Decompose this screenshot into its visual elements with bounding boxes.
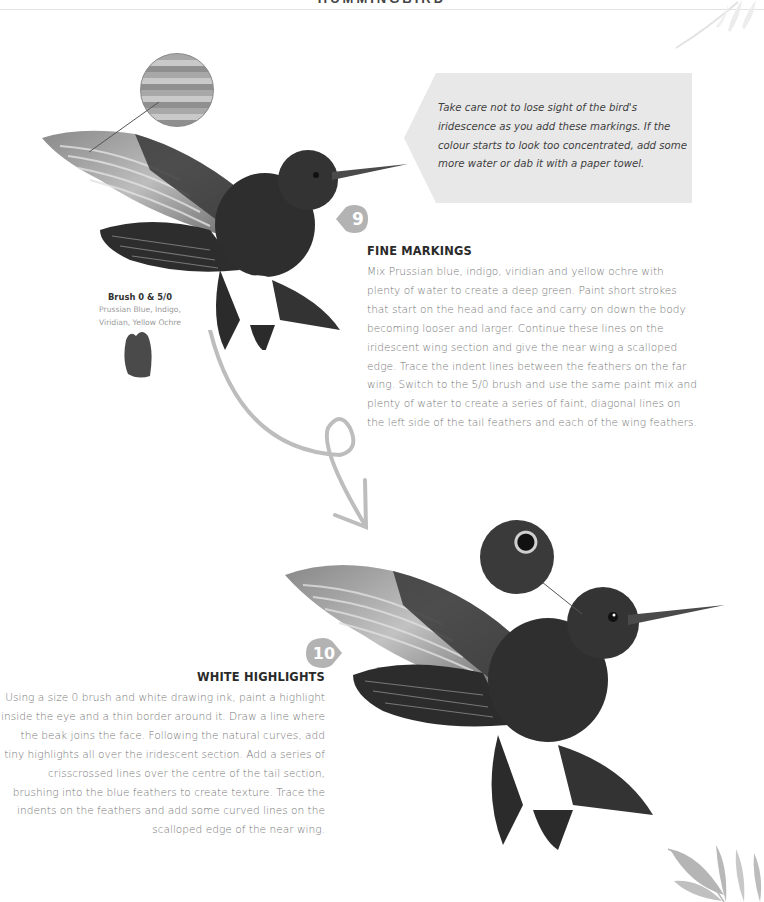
step-10-heading: WHITE HIGHLIGHTS [0, 670, 325, 684]
detail-pointer-line [85, 100, 165, 160]
leaf-decoration-top-icon [668, 0, 764, 60]
page-header-title: HUMMINGBIRD [0, 0, 764, 6]
step-9-heading: FINE MARKINGS [367, 244, 472, 258]
paint-swatch [120, 330, 160, 380]
callout-text: Take care not to lose sight of the bird'… [438, 99, 688, 174]
curved-arrow-icon [200, 330, 400, 580]
leaf-decoration-bottom-icon [660, 845, 764, 902]
eye-pointer-line [540, 580, 590, 620]
tip-callout: Take care not to lose sight of the bird'… [404, 73, 692, 203]
header-divider [0, 9, 764, 10]
step-10-body: Using a size 0 brush and white drawing i… [0, 688, 325, 839]
brush-info: Brush 0 & 5/0 Prussian Blue, Indigo, Vir… [80, 292, 200, 328]
brush-colors-line1: Prussian Blue, Indigo, [80, 304, 200, 315]
step-10-badge: 10 [306, 638, 342, 668]
brush-title: Brush 0 & 5/0 [80, 292, 200, 302]
hummingbird-illustration-step10 [283, 555, 733, 855]
step-10-number: 10 [306, 638, 348, 668]
step-9-body: Mix Prussian blue, indigo, viridian and … [367, 262, 697, 432]
brush-colors-line2: Viridian, Yellow Ochre [80, 317, 200, 328]
step-9-badge: 9 [336, 205, 368, 233]
step-9-number: 9 [336, 205, 374, 233]
